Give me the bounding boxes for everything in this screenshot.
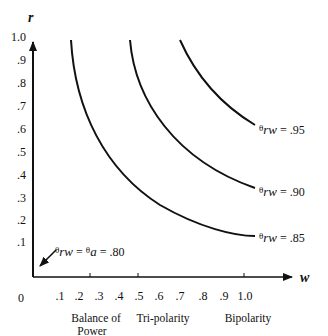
x-tick-labels: .1 .2 .3 .4 .5 .6 .7 .8 .9 1.0 [56, 289, 253, 303]
x-tick-label: .6 [155, 289, 164, 303]
category-label-bipolarity: Bipolarity [225, 312, 272, 325]
y-tick-label: .2 [17, 213, 26, 227]
y-tick-label: .8 [17, 76, 26, 90]
y-tick-label: .1 [17, 235, 26, 249]
category-label-balance-of-power: Balance of [71, 312, 121, 324]
chart: r w 1.0 .9 .8 .7 .6 .5 .4 .3 .2 .1 0 .1 … [0, 0, 328, 336]
category-label-balance-of-power-2: Power [77, 325, 107, 336]
curve-label-090: θrw = .90 [259, 184, 305, 199]
category-label-tri-polarity: Tri-polarity [136, 312, 189, 325]
y-tick-label: .3 [17, 191, 26, 205]
y-tick-label: .4 [17, 168, 26, 182]
y-axis-title: r [28, 10, 34, 25]
curve-085 [71, 40, 255, 236]
x-tick-label: .4 [115, 289, 124, 303]
curve-095 [180, 40, 255, 125]
y-tick-label: 1.0 [11, 30, 26, 44]
y-tick-label: .6 [17, 122, 26, 136]
x-tick-label: 1.0 [238, 289, 253, 303]
y-tick-label: .7 [17, 99, 26, 113]
annotation-arrow [40, 250, 56, 266]
x-tick-label: .3 [95, 289, 104, 303]
x-tick-label: .2 [75, 289, 84, 303]
curve-label-095: θrw = .95 [259, 122, 305, 137]
y-tick-label: .5 [17, 145, 26, 159]
annotation-label: θrw = θa = .80 [55, 244, 124, 259]
x-tick-label: .7 [176, 289, 185, 303]
curve-label-085: θrw = .85 [259, 230, 305, 245]
y-tick-labels: 1.0 .9 .8 .7 .6 .5 .4 .3 .2 .1 [11, 30, 26, 249]
x-tick-label: .8 [199, 289, 208, 303]
origin-label: 0 [18, 291, 24, 305]
x-axis-title: w [300, 270, 310, 285]
y-tick-label: .9 [17, 53, 26, 67]
x-tick-label: .9 [220, 289, 229, 303]
x-tick-label: .1 [56, 289, 65, 303]
x-tick-label: .5 [135, 289, 144, 303]
